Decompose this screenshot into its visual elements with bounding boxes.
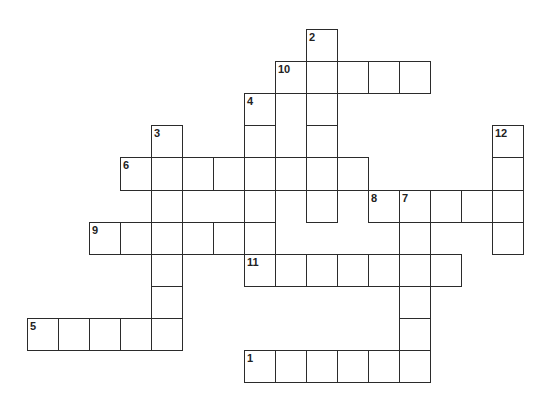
crossword-cell[interactable]: 3 — [151, 125, 183, 158]
crossword-cell[interactable] — [368, 61, 400, 94]
clue-number: 7 — [402, 193, 408, 204]
clue-number: 9 — [92, 225, 98, 236]
crossword-cell[interactable] — [306, 350, 338, 383]
crossword-cell[interactable] — [244, 157, 276, 191]
clue-number: 5 — [30, 321, 36, 332]
crossword-cell[interactable]: 12 — [492, 125, 524, 158]
crossword-cell[interactable] — [213, 222, 245, 255]
crossword-cell[interactable]: 7 — [399, 190, 431, 223]
crossword-cell[interactable] — [58, 318, 90, 351]
crossword-cell[interactable] — [213, 157, 245, 191]
crossword-grid: 123411567891012 — [0, 0, 551, 408]
crossword-cell[interactable]: 1 — [244, 350, 276, 383]
crossword-cell[interactable] — [275, 254, 307, 287]
crossword-cell[interactable] — [151, 222, 183, 255]
crossword-cell[interactable] — [337, 61, 369, 94]
crossword-cell[interactable]: 5 — [27, 318, 59, 351]
crossword-cell[interactable] — [306, 157, 338, 191]
crossword-cell[interactable] — [399, 350, 431, 383]
crossword-cell[interactable] — [306, 93, 338, 126]
crossword-cell[interactable] — [399, 318, 431, 351]
crossword-cell[interactable] — [120, 318, 152, 351]
crossword-cell[interactable] — [244, 222, 276, 255]
crossword-cell[interactable] — [368, 350, 400, 383]
crossword-cell[interactable] — [244, 125, 276, 158]
crossword-cell[interactable]: 9 — [89, 222, 121, 255]
crossword-cell[interactable]: 4 — [244, 93, 276, 126]
crossword-cell[interactable] — [492, 190, 524, 223]
crossword-cell[interactable] — [492, 157, 524, 191]
crossword-cell[interactable]: 6 — [120, 157, 152, 191]
clue-number: 6 — [123, 160, 129, 171]
clue-number: 8 — [371, 193, 377, 204]
crossword-cell[interactable] — [151, 286, 183, 319]
crossword-cell[interactable] — [182, 222, 214, 255]
crossword-cell[interactable] — [89, 318, 121, 351]
crossword-cell[interactable] — [306, 125, 338, 158]
clue-number: 4 — [247, 96, 253, 107]
crossword-cell[interactable] — [151, 318, 183, 351]
crossword-cell[interactable] — [275, 157, 307, 191]
crossword-cell[interactable] — [306, 254, 338, 287]
crossword-cell[interactable] — [275, 350, 307, 383]
crossword-cell[interactable] — [244, 190, 276, 223]
crossword-cell[interactable]: 10 — [275, 61, 307, 94]
crossword-cell[interactable] — [399, 286, 431, 319]
crossword-cell[interactable] — [430, 190, 462, 223]
crossword-cell[interactable] — [151, 190, 183, 223]
crossword-cell[interactable] — [306, 61, 338, 94]
crossword-cell[interactable] — [430, 254, 462, 287]
crossword-cell[interactable] — [306, 190, 338, 223]
crossword-cell[interactable] — [337, 254, 369, 287]
clue-number: 12 — [495, 128, 507, 139]
crossword-cell[interactable] — [461, 190, 493, 223]
crossword-cell[interactable] — [368, 254, 400, 287]
crossword-cell[interactable] — [399, 222, 431, 255]
clue-number: 1 — [247, 353, 253, 364]
crossword-cell[interactable]: 11 — [244, 254, 276, 287]
crossword-cell[interactable]: 8 — [368, 190, 400, 223]
crossword-cell[interactable] — [182, 157, 214, 191]
crossword-cell[interactable] — [120, 222, 152, 255]
crossword-cell[interactable] — [337, 157, 369, 191]
crossword-cell[interactable] — [492, 222, 524, 255]
clue-number: 11 — [247, 257, 259, 268]
crossword-cell[interactable] — [399, 61, 431, 94]
crossword-cell[interactable] — [151, 254, 183, 287]
crossword-cell[interactable] — [337, 350, 369, 383]
clue-number: 3 — [154, 128, 160, 139]
crossword-cell[interactable]: 2 — [306, 29, 338, 62]
clue-number: 2 — [309, 32, 315, 43]
crossword-cell[interactable] — [151, 157, 183, 191]
clue-number: 10 — [278, 64, 290, 75]
crossword-cell[interactable] — [399, 254, 431, 287]
